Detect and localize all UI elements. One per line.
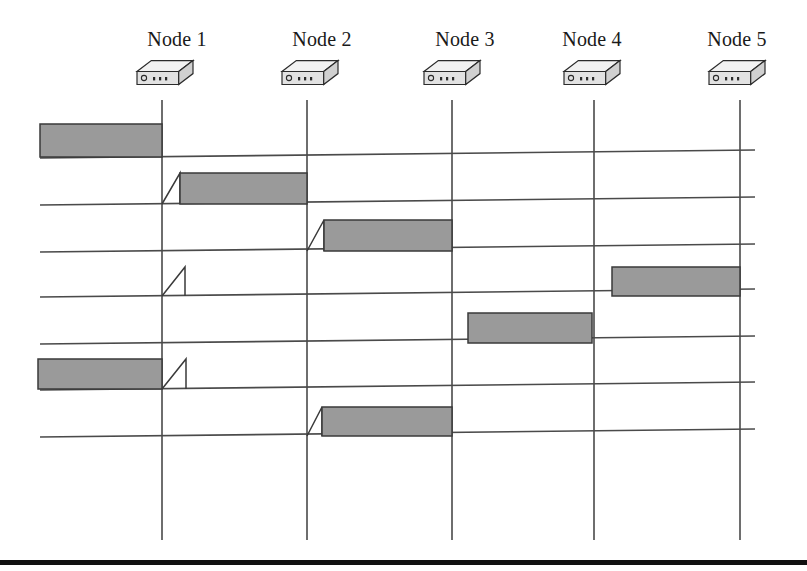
device-status-led-icon <box>592 77 594 80</box>
transmission-bar: row 2 transmission from Node 1 to Node 2 <box>180 173 307 204</box>
transmission-bar: row 6 transmission ending at Node 1 <box>38 359 162 389</box>
transmission-bar: row 5 transmission from Node 3 to Node 4 <box>468 313 592 343</box>
node-label-4: Node 4 <box>562 28 622 51</box>
node-label-5: Node 5 <box>707 28 767 51</box>
router-device-icon <box>564 61 620 85</box>
device-status-led-icon <box>731 77 733 80</box>
device-icons <box>137 61 765 85</box>
device-status-led-icon <box>310 77 312 80</box>
bottom-divider <box>0 560 807 565</box>
footer-rule <box>0 560 807 565</box>
router-device-icon <box>424 61 480 85</box>
timeline-baseline <box>40 197 755 205</box>
router-device-icon <box>709 61 765 85</box>
device-status-led-icon <box>440 77 442 80</box>
device-front-face <box>424 72 466 85</box>
collision-ramp: row 4 collision ramp at Node 1 <box>162 267 185 296</box>
bar-leading-ramp <box>307 407 322 436</box>
device-front-face <box>564 72 606 85</box>
router-device-icon <box>282 61 338 85</box>
timeline-baseline <box>40 336 755 344</box>
node-label-1: Node 1 <box>147 28 207 51</box>
device-status-led-icon <box>159 77 161 80</box>
transmission-bar: row 7 transmission from Node 2 to Node 3 <box>322 407 452 436</box>
transmission-bars: row 1 transmission ending at Node 1row 2… <box>38 124 740 436</box>
device-status-led-icon <box>586 77 588 80</box>
bar-leading-ramp <box>307 220 324 251</box>
router-device-icon <box>137 61 193 85</box>
device-status-led-icon <box>725 77 727 80</box>
device-status-led-icon <box>737 77 739 80</box>
device-front-face <box>709 72 751 85</box>
device-front-face <box>282 72 324 85</box>
node-label-3: Node 3 <box>435 28 495 51</box>
device-status-led-icon <box>165 77 167 80</box>
device-status-led-icon <box>580 77 582 80</box>
device-status-led-icon <box>153 77 155 80</box>
device-status-led-icon <box>304 77 306 80</box>
device-status-led-icon <box>452 77 454 80</box>
device-front-face <box>137 72 179 85</box>
node-label-2: Node 2 <box>292 28 352 51</box>
device-status-led-icon <box>446 77 448 80</box>
diagram-canvas: row 1 transmission ending at Node 1row 2… <box>0 0 807 571</box>
device-status-led-icon <box>298 77 300 80</box>
transmission-bar: row 1 transmission ending at Node 1 <box>40 124 162 157</box>
node-drop-lines <box>162 100 740 540</box>
transmission-bar: row 4 transmission from Node 4 to Node 5 <box>612 267 740 296</box>
timeline-diagram: row 1 transmission ending at Node 1row 2… <box>0 0 807 571</box>
collision-ramp: row 6 collision ramp at Node 1 <box>162 359 186 389</box>
bar-leading-ramp <box>162 173 180 204</box>
transmission-bar: row 3 transmission from Node 2 to Node 3 <box>324 220 452 251</box>
